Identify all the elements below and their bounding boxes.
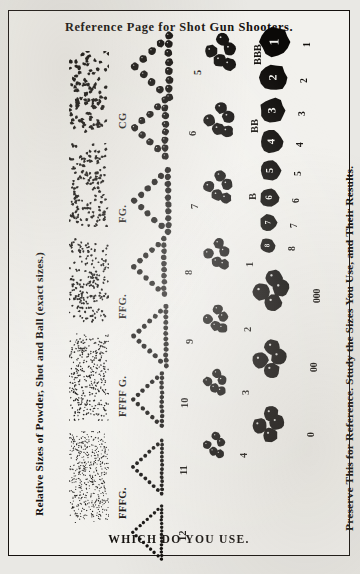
- ball-size-label: 6: [290, 198, 301, 203]
- ball-cluster-label: 00: [308, 362, 319, 372]
- ball-shot: [257, 62, 290, 93]
- ball-cluster-label: 0: [305, 432, 316, 437]
- ball-size-label: 5: [292, 171, 303, 176]
- buckshot-size-label: 4: [238, 452, 249, 457]
- shot-cluster: [127, 363, 171, 436]
- ball-size-label: 1: [301, 42, 312, 47]
- ball-size-label: 3: [296, 111, 307, 116]
- right-vertical-caption: Preserve This for Reference. Study the S…: [343, 166, 355, 531]
- buckshot-cluster: [199, 365, 234, 400]
- reference-page: Reference Page for Shot Gun Shooters. Re…: [0, 0, 360, 574]
- shot-size-label: 9: [184, 339, 195, 344]
- buckshot-cluster: [199, 301, 236, 338]
- ball-size-label: 8: [286, 246, 297, 251]
- bottom-caption: WHICH DO YOU USE.: [9, 533, 349, 546]
- powder-patch: [69, 431, 109, 523]
- shot-size-label: 8: [183, 269, 194, 274]
- buckshot-cluster: [199, 99, 243, 143]
- powder-patch: [69, 51, 109, 133]
- buckshot-size-label: 3: [240, 389, 251, 394]
- powder-patch: [69, 333, 109, 421]
- buckshot-cluster: [199, 29, 246, 76]
- buckshot-cluster: [199, 429, 232, 462]
- ball-cluster: [247, 264, 301, 318]
- shot-size-label: 11: [178, 465, 189, 475]
- ball-shot: [257, 96, 288, 125]
- ball-cluster: [247, 401, 295, 449]
- buckshot-size-label: 2: [242, 326, 253, 331]
- buckshot-cluster: [199, 235, 238, 274]
- ball-shot: [257, 212, 280, 233]
- powder-patch: [69, 143, 109, 227]
- ball-size-label: 7: [288, 223, 299, 228]
- page-frame: Reference Page for Shot Gun Shooters. Re…: [8, 10, 350, 556]
- buckshot-cluster: [199, 167, 241, 209]
- ball-size-label: 2: [298, 78, 309, 83]
- shot-cluster: [127, 431, 170, 503]
- ball-cluster-label: 000: [311, 289, 322, 303]
- ball-size-label: 4: [294, 142, 305, 147]
- ball-shot: [257, 158, 284, 183]
- shot-size-label: 6: [187, 131, 198, 136]
- shot-size-label: 10: [179, 397, 190, 407]
- ball-cluster: [247, 334, 298, 385]
- powder-patch: [69, 237, 109, 323]
- ball-shot: [257, 128, 286, 155]
- powder-column: CGFG.FFG.FFFF G.FFFG.: [67, 43, 119, 523]
- left-vertical-caption: Relative Sizes of Powder, Shot and Ball …: [33, 252, 45, 516]
- ball-shot: [257, 186, 282, 209]
- ball-shot: [257, 25, 293, 59]
- ball-shot: [257, 236, 278, 255]
